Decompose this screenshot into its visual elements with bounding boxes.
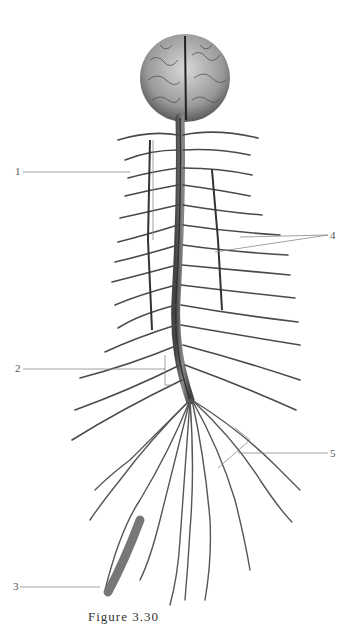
figure-caption: Figure 3.30 bbox=[88, 609, 159, 625]
leader-lines bbox=[20, 140, 328, 587]
label-2: 2 bbox=[15, 362, 21, 374]
label-5: 5 bbox=[330, 447, 336, 459]
brain bbox=[140, 34, 230, 122]
label-1: 1 bbox=[15, 165, 21, 177]
label-4: 4 bbox=[330, 229, 336, 241]
spinal-cord bbox=[176, 118, 190, 400]
label-3: 3 bbox=[13, 580, 19, 592]
